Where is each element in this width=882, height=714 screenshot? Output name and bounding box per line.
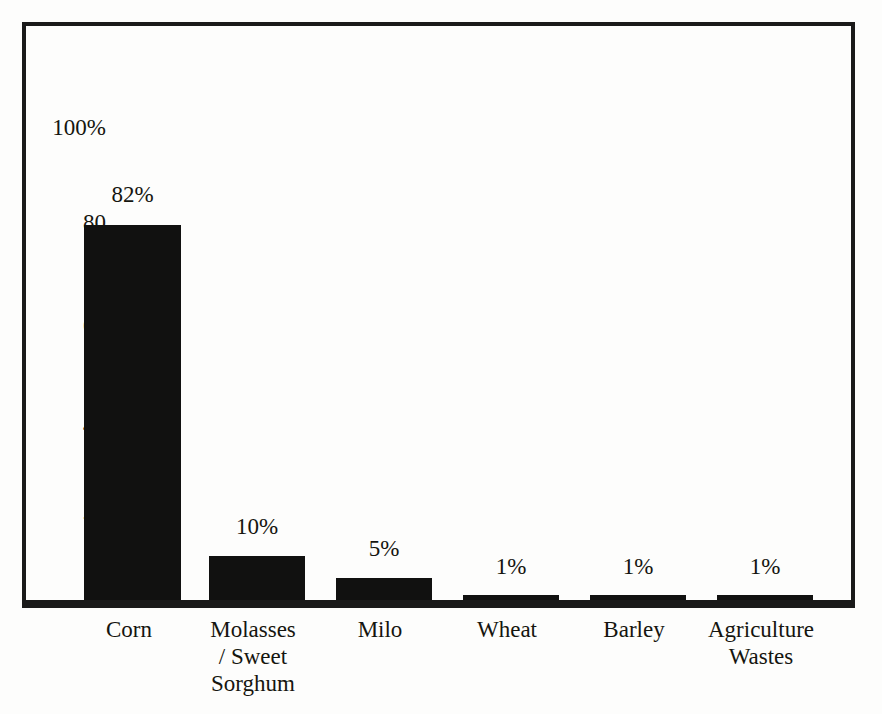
x-axis-baseline — [26, 600, 851, 604]
plot-area: 100% 80 60 40 20 0 82% 10% 5% 1% 1% 1% — [26, 26, 851, 604]
x-label-milo: Milo — [321, 616, 439, 643]
bar-value-milo: 5% — [336, 537, 432, 560]
y-tick-label: 100% — [52, 116, 106, 139]
bar-value-molasses-sweet-sorghum: 10% — [209, 515, 305, 538]
x-label-agriculture-wastes: Agriculture Wastes — [698, 616, 824, 670]
bar-value-wheat: 1% — [463, 555, 559, 578]
chart-frame: 100% 80 60 40 20 0 82% 10% 5% 1% 1% 1% — [22, 22, 855, 608]
bar-value-corn: 82% — [84, 183, 181, 206]
x-label-corn: Corn — [70, 616, 188, 643]
x-label-barley: Barley — [575, 616, 693, 643]
bar-molasses-sweet-sorghum — [209, 556, 305, 604]
x-axis-category-labels: Corn Molasses / Sweet Sorghum Milo Wheat… — [22, 616, 855, 708]
x-label-wheat: Wheat — [448, 616, 566, 643]
bar-value-barley: 1% — [590, 555, 686, 578]
bar-value-agriculture-wastes: 1% — [717, 555, 813, 578]
bar-corn — [84, 225, 181, 604]
x-label-molasses-sweet-sorghum: Molasses / Sweet Sorghum — [194, 616, 312, 697]
